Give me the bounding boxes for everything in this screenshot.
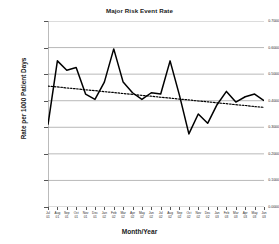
x-tick-mark: [189, 207, 190, 210]
x-tick-mark: [95, 207, 96, 210]
x-axis-title: Month/Year: [0, 228, 279, 235]
x-tick-mark: [57, 207, 58, 210]
x-tick-mark: [170, 207, 171, 210]
x-tick-mark: [104, 207, 105, 210]
x-tick-mark: [67, 207, 68, 210]
data-series-layer: [48, 21, 264, 207]
x-tick-label: Jun03: [256, 211, 272, 219]
plot-area: [48, 21, 264, 207]
x-tick-mark: [179, 207, 180, 210]
x-tick-mark: [133, 207, 134, 210]
x-tick-mark: [264, 207, 265, 210]
x-tick-mark: [114, 207, 115, 210]
x-tick-mark: [198, 207, 199, 210]
chart-container: Major Risk Event Rate Rate per 1000 Pati…: [0, 0, 279, 244]
x-tick-mark: [226, 207, 227, 210]
x-tick-mark: [76, 207, 77, 210]
x-tick-mark: [161, 207, 162, 210]
x-tick-mark: [48, 207, 49, 210]
x-tick-mark: [236, 207, 237, 210]
x-tick-mark: [142, 207, 143, 210]
x-tick-mark: [123, 207, 124, 210]
x-tick-mark: [245, 207, 246, 210]
x-tick-mark: [217, 207, 218, 210]
data-line: [48, 49, 264, 134]
y-axis-title: Rate per 1000 Patient Days: [20, 29, 27, 169]
x-tick-mark: [208, 207, 209, 210]
x-tick-mark: [86, 207, 87, 210]
x-tick-mark: [151, 207, 152, 210]
chart-title: Major Risk Event Rate: [0, 7, 279, 14]
x-tick-mark: [255, 207, 256, 210]
